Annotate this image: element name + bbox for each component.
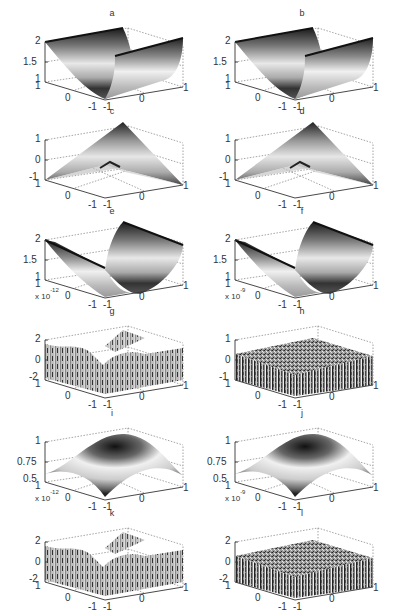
z-tick-label: 0 (225, 355, 231, 365)
y-tick-label: 0 (65, 593, 71, 603)
surface-plot-c (0, 98, 198, 199)
exponent-power: -12 (50, 489, 59, 495)
z-tick-label: 1 (35, 134, 41, 144)
subplot-title: f (292, 206, 312, 216)
z-axis-exponent-label: x 10-9 (225, 290, 245, 301)
x-tick-label: 1 (183, 281, 189, 291)
z-tick-label: 0.75 (17, 457, 36, 467)
x-tick-label: 1 (373, 181, 379, 191)
subplot-c: c10-110-1-101 (0, 98, 198, 199)
y-tick-label: 1 (225, 379, 231, 389)
x-tick-label: 0 (329, 594, 335, 604)
x-tick-label: 1 (373, 281, 379, 291)
z-tick-label: 2 (35, 334, 41, 344)
z-tick-label: 2 (35, 36, 41, 46)
z-tick-label: 2 (225, 536, 231, 546)
surface-plot-g (0, 298, 198, 399)
y-tick-label: 1 (35, 481, 41, 491)
z-tick-label: 2 (35, 536, 41, 546)
surface-plot-i (0, 400, 198, 501)
y-tick-label: 1 (35, 179, 41, 189)
subplot-l: l20-210-1-101x 10-9 (200, 500, 396, 601)
x-tick-label: 1 (373, 83, 379, 93)
subplot-title: d (292, 106, 312, 116)
exponent-base: x 10 (35, 292, 50, 301)
y-tick-label: 1 (225, 481, 231, 491)
subplot-title: c (102, 106, 122, 116)
y-tick-label: 1 (35, 581, 41, 591)
y-tick-label: 1 (225, 279, 231, 289)
z-tick-label: 1 (225, 334, 231, 344)
exponent-base: x 10 (225, 494, 240, 503)
y-tick-label: 0 (255, 593, 261, 603)
z-tick-label: 1 (225, 134, 231, 144)
subplot-title: j (292, 408, 312, 418)
x-tick-label: 1 (373, 381, 379, 391)
y-tick-label: -1 (88, 602, 97, 612)
x-tick-label: 1 (183, 181, 189, 191)
z-tick-label: 2 (225, 36, 231, 46)
exponent-power: -9 (240, 489, 245, 495)
subplot-title: l (292, 508, 312, 518)
z-tick-label: 1.5 (23, 57, 37, 67)
subplot-title: a (102, 8, 122, 18)
subplot-k: k20-210-1-101x 10-12 (0, 500, 198, 601)
x-tick-label: 1 (183, 583, 189, 593)
subplot-g: g20-210-1-101x 10-12 (0, 298, 198, 399)
x-tick-label: 1 (183, 483, 189, 493)
subplot-a: a21.5110-1-101 (0, 0, 198, 101)
exponent-base: x 10 (35, 494, 50, 503)
z-tick-label: 0.75 (207, 457, 226, 467)
surface-plot-a (0, 0, 198, 101)
y-tick-label: 1 (35, 379, 41, 389)
z-tick-label: 1 (35, 436, 41, 446)
subplot-h: h10-110-1-101x 10-9 (200, 298, 396, 399)
z-tick-label: 0 (35, 355, 41, 365)
x-tick-label: 1 (373, 583, 379, 593)
subplot-f: f21.5110-1-101 (200, 198, 396, 299)
z-tick-label: 0 (225, 557, 231, 567)
exponent-power: -9 (240, 287, 245, 293)
subplot-e: e21.5110-1-101 (0, 198, 198, 299)
z-tick-label: 0 (35, 557, 41, 567)
y-tick-label: 1 (225, 179, 231, 189)
surface-plot-k (0, 500, 198, 601)
z-tick-label: 2 (35, 234, 41, 244)
subplot-j: j10.750.510-1-101 (200, 400, 396, 501)
subplot-title: b (292, 8, 312, 18)
y-tick-label: 1 (35, 81, 41, 91)
exponent-base: x 10 (225, 292, 240, 301)
subplot-title: e (102, 206, 122, 216)
subplot-title: h (292, 306, 312, 316)
z-axis-exponent-label: x 10-12 (35, 290, 59, 301)
subplot-d: d10-110-1-101 (200, 98, 396, 199)
z-tick-label: 1.5 (213, 255, 227, 265)
z-tick-label: 0 (35, 155, 41, 165)
subplot-title: g (102, 306, 122, 316)
subplot-title: k (102, 508, 122, 518)
z-tick-label: 1 (225, 436, 231, 446)
x-tick-label: 1 (183, 83, 189, 93)
exponent-power: -12 (50, 287, 59, 293)
z-tick-label: 2 (225, 234, 231, 244)
subplot-title: i (102, 408, 122, 418)
surface-plot-e (0, 198, 198, 299)
z-tick-label: 0 (225, 155, 231, 165)
y-tick-label: 1 (225, 81, 231, 91)
subplot-b: b21.5110-1-101 (200, 0, 396, 101)
z-tick-label: 1.5 (213, 57, 227, 67)
subplot-i: i10.750.510-1-101 (0, 400, 198, 501)
z-tick-label: 1.5 (23, 255, 37, 265)
x-tick-label: -1 (103, 602, 112, 612)
x-tick-label: 0 (139, 594, 145, 604)
x-tick-label: -1 (293, 602, 302, 612)
z-axis-exponent-label: x 10-12 (35, 492, 59, 503)
z-axis-exponent-label: x 10-9 (225, 492, 245, 503)
y-tick-label: -1 (278, 602, 287, 612)
x-tick-label: 1 (183, 381, 189, 391)
y-tick-label: 1 (35, 279, 41, 289)
y-tick-label: 1 (225, 581, 231, 591)
x-tick-label: 1 (373, 483, 379, 493)
